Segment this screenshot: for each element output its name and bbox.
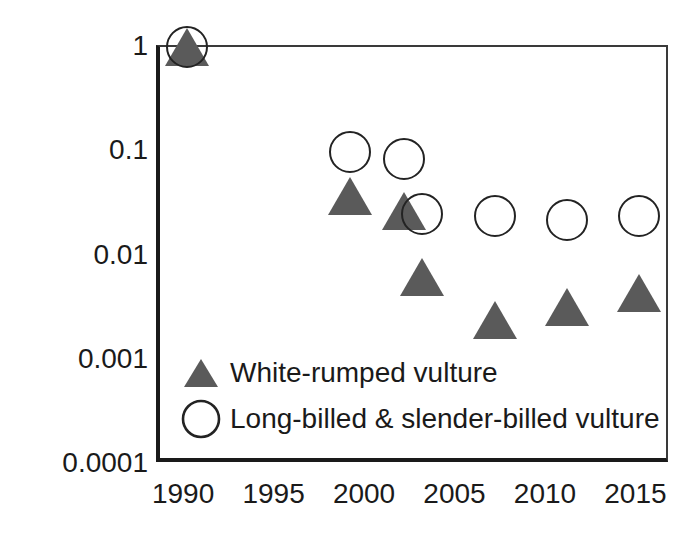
legend-item-white-rumped-vulture: White-rumped vulture — [178, 350, 660, 396]
y-tick-label: 1 — [0, 30, 148, 62]
x-tick-label: 2015 — [580, 478, 690, 510]
data-point-triangle — [617, 274, 661, 312]
y-tick-label: 0.1 — [0, 134, 148, 166]
y-tick-label: 0.01 — [0, 239, 148, 271]
y-tick-label: 0.0001 — [0, 447, 148, 479]
triangle-marker-icon — [178, 357, 224, 389]
data-point-circle — [383, 138, 425, 180]
circle-marker-icon — [178, 398, 224, 440]
data-point-circle — [618, 195, 660, 237]
legend-item-label: Long-billed & slender-billed vulture — [230, 403, 660, 435]
data-point-triangle — [545, 288, 589, 326]
data-point-triangle — [473, 301, 517, 339]
legend-item-long-billed-vulture: Long-billed & slender-billed vulture — [178, 396, 660, 442]
data-point-circle — [474, 195, 516, 237]
chart-legend: White-rumped vulture Long-billed & slend… — [178, 350, 660, 442]
data-point-triangle — [328, 177, 372, 215]
data-point-circle — [166, 26, 208, 68]
data-point-circle — [546, 199, 588, 241]
legend-item-label: White-rumped vulture — [230, 357, 498, 389]
chart-figure: Population index 10.10.010.0010.0001 199… — [0, 0, 698, 546]
data-point-circle — [401, 193, 443, 235]
data-point-circle — [329, 131, 371, 173]
y-tick-label: 0.001 — [0, 343, 148, 375]
data-point-triangle — [400, 258, 444, 296]
